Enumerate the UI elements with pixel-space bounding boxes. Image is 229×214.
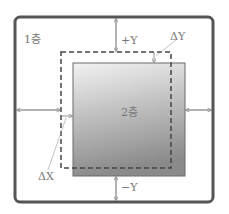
floor1-label: 1층: [24, 33, 41, 46]
displacement-diagram: 1층 2층 +Y −Y ΔY ΔX: [0, 0, 229, 214]
floor2-block: [73, 63, 185, 176]
floor2-label: 2층: [121, 106, 138, 119]
plus-y-label: +Y: [121, 34, 138, 47]
minus-y-label: −Y: [121, 181, 138, 194]
delta-x-label: ΔX: [38, 170, 54, 183]
delta-y-label: ΔY: [170, 30, 186, 43]
